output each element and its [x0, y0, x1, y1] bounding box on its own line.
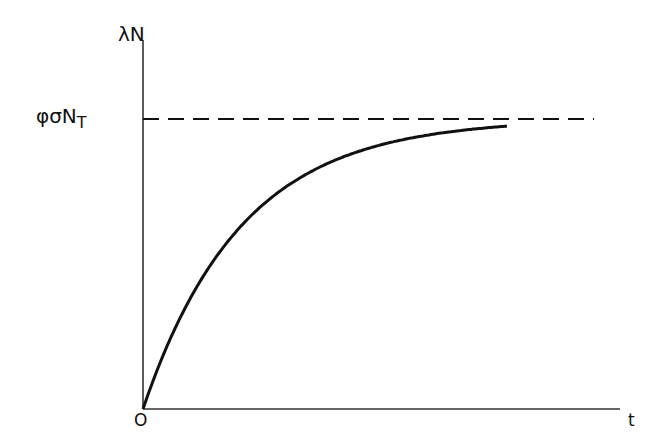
x-axis-label: t: [628, 410, 635, 430]
chart-canvas: [0, 0, 667, 442]
y-axis-label: λN: [118, 22, 145, 46]
saturation-curve: [143, 126, 507, 409]
origin-label: O: [134, 410, 147, 430]
asymptote-label-subscript: T: [77, 113, 87, 132]
asymptote-label: φσNT: [36, 104, 87, 132]
asymptote-label-main: φσN: [36, 104, 77, 128]
